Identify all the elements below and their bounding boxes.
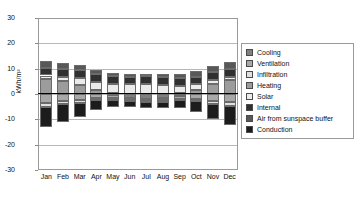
bar-segment[interactable] xyxy=(90,70,102,74)
legend-swatch-icon xyxy=(246,115,253,122)
legend-item[interactable]: Air from sunspace buffer xyxy=(246,113,350,124)
legend-swatch-icon xyxy=(246,71,253,78)
legend: CoolingVentilationInfiltrationHeatingSol… xyxy=(241,43,354,139)
bar-column[interactable] xyxy=(190,18,202,170)
bar-segment[interactable] xyxy=(224,69,236,77)
x-tick-label: May xyxy=(105,173,122,181)
bar-segment[interactable] xyxy=(74,103,86,117)
legend-item-label: Air from sunspace buffer xyxy=(257,115,333,123)
bar-segment[interactable] xyxy=(40,68,52,76)
bar-segment[interactable] xyxy=(224,106,236,125)
bar-segment[interactable] xyxy=(74,70,86,78)
bar-segment[interactable] xyxy=(207,94,219,101)
bar-segment[interactable] xyxy=(57,69,69,77)
bar-segment[interactable] xyxy=(174,74,186,78)
y-tick-label: -20 xyxy=(0,141,15,148)
x-tick-label: Jun xyxy=(121,173,138,181)
bar-segment[interactable] xyxy=(124,101,136,107)
bar-segment[interactable] xyxy=(90,100,102,110)
bar-segment[interactable] xyxy=(140,102,152,108)
bar-segment[interactable] xyxy=(107,100,119,108)
bar-segment[interactable] xyxy=(140,76,152,84)
bar-segment[interactable] xyxy=(207,104,219,119)
x-tick-label: Oct xyxy=(188,173,205,181)
y-tick-label: -30 xyxy=(0,166,15,173)
legend-item[interactable]: Ventilation xyxy=(246,58,350,69)
bar-segment[interactable] xyxy=(157,74,169,77)
bar-segment[interactable] xyxy=(107,73,119,76)
y-tick-label: 0 xyxy=(0,90,15,97)
legend-item[interactable]: Internal xyxy=(246,102,350,113)
bar-segment[interactable] xyxy=(40,79,52,94)
legend-item-label: Cooling xyxy=(257,49,281,57)
bar-column[interactable] xyxy=(74,18,86,170)
bar-column[interactable] xyxy=(174,18,186,170)
legend-item-label: Infiltration xyxy=(257,71,287,79)
x-tick-label: Feb xyxy=(55,173,72,181)
legend-item-label: Heating xyxy=(257,82,281,90)
legend-item[interactable]: Infiltration xyxy=(246,69,350,80)
bar-segment[interactable] xyxy=(40,107,52,127)
bar-segment[interactable] xyxy=(74,78,86,85)
bar-segment[interactable] xyxy=(140,74,152,77)
bar-segment[interactable] xyxy=(190,71,202,76)
bar-segment[interactable] xyxy=(207,80,219,84)
bar-segment[interactable] xyxy=(207,66,219,72)
zero-baseline xyxy=(38,93,238,94)
y-tick-label: 30 xyxy=(0,14,15,21)
bar-segment[interactable] xyxy=(57,63,69,69)
legend-swatch-icon xyxy=(246,49,253,56)
bar-segment[interactable] xyxy=(190,77,202,85)
bar-column[interactable] xyxy=(107,18,119,170)
bar-column[interactable] xyxy=(57,18,69,170)
bar-segment[interactable] xyxy=(190,84,202,90)
bar-segment[interactable] xyxy=(57,94,69,101)
bar-segment[interactable] xyxy=(90,74,102,82)
bar-segment[interactable] xyxy=(74,65,86,71)
bar-segment[interactable] xyxy=(157,102,169,108)
bar-segment[interactable] xyxy=(57,77,69,82)
legend-items: CoolingVentilationInfiltrationHeatingSol… xyxy=(246,47,350,135)
bar-segment[interactable] xyxy=(174,78,186,86)
bar-segment[interactable] xyxy=(224,77,236,80)
x-tick-label: Mar xyxy=(71,173,88,181)
bar-segment[interactable] xyxy=(190,101,202,112)
bar-segment[interactable] xyxy=(124,74,136,77)
bar-column[interactable] xyxy=(207,18,219,170)
bar-series-layer xyxy=(38,18,238,170)
x-tick-label: Sep xyxy=(171,173,188,181)
bar-column[interactable] xyxy=(90,18,102,170)
bar-segment[interactable] xyxy=(207,72,219,80)
bar-segment[interactable] xyxy=(157,77,169,85)
bar-segment[interactable] xyxy=(107,84,119,93)
y-tick-mark xyxy=(35,170,38,171)
legend-item[interactable]: Conduction xyxy=(246,124,350,135)
bar-segment[interactable] xyxy=(224,62,236,69)
bar-segment[interactable] xyxy=(124,77,136,85)
legend-item[interactable]: Heating xyxy=(246,80,350,91)
bar-column[interactable] xyxy=(140,18,152,170)
bar-segment[interactable] xyxy=(90,82,102,90)
y-axis-label-text: kWh/m² xyxy=(15,69,22,93)
x-tick-label: Apr xyxy=(88,173,105,181)
bar-segment[interactable] xyxy=(40,76,52,80)
y-tick-label: 10 xyxy=(0,65,15,72)
bar-segment[interactable] xyxy=(224,80,236,94)
legend-item-label: Internal xyxy=(257,104,280,112)
bar-segment[interactable] xyxy=(174,100,186,108)
x-tick-label: Jan xyxy=(38,173,55,181)
legend-item[interactable]: Solar xyxy=(246,91,350,102)
bar-segment[interactable] xyxy=(107,76,119,84)
bar-segment[interactable] xyxy=(40,61,52,68)
bar-column[interactable] xyxy=(40,18,52,170)
bar-segment[interactable] xyxy=(40,94,52,103)
y-tick-label: 20 xyxy=(0,39,15,46)
bar-column[interactable] xyxy=(224,18,236,170)
bar-column[interactable] xyxy=(157,18,169,170)
bar-column[interactable] xyxy=(124,18,136,170)
legend-swatch-icon xyxy=(246,104,253,111)
legend-swatch-icon xyxy=(246,126,253,133)
bar-segment[interactable] xyxy=(57,104,69,122)
legend-item[interactable]: Cooling xyxy=(246,47,350,58)
bar-segment[interactable] xyxy=(224,94,236,102)
